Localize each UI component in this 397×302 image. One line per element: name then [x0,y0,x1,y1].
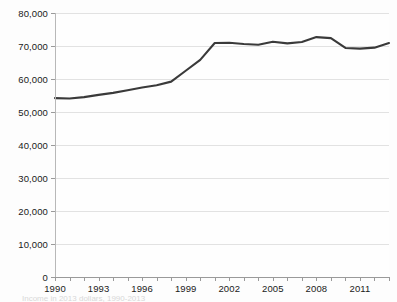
y-axis-tick-label: 60,000 [0,74,48,85]
y-axis-tick-mark [51,145,55,146]
plot-area [55,13,389,277]
x-axis-tick-mark [287,277,288,281]
x-axis-tick-label: 2011 [350,283,371,294]
y-axis-tick-mark [51,46,55,47]
y-axis-tick-label: 40,000 [0,140,48,151]
y-axis-tick-label: 20,000 [0,206,48,217]
x-axis-tick-mark [374,277,375,281]
x-axis-tick-label: 2005 [262,283,284,294]
x-axis-tick-label: 1993 [88,283,110,294]
x-axis-tick-mark [331,277,332,281]
x-axis-tick-mark [70,277,71,281]
y-axis-tick-mark [51,211,55,212]
x-axis-tick-mark [84,277,85,281]
x-axis-tick-mark [316,277,317,281]
y-axis-tick-mark [51,13,55,14]
x-axis-tick-mark [171,277,172,281]
y-axis-tick-label: 0 [0,272,48,283]
y-axis-tick-mark [51,244,55,245]
x-axis-tick-mark [200,277,201,281]
chart-caption: Income in 2013 dollars, 1990-2013 [22,294,392,302]
x-axis-tick-mark [258,277,259,281]
x-axis-tick-mark [113,277,114,281]
x-axis-tick-mark [345,277,346,281]
x-axis-tick-label: 2002 [218,283,240,294]
y-axis-tick-label: 80,000 [0,8,48,19]
y-axis-tick-mark [51,112,55,113]
x-axis-tick-label: 1999 [175,283,197,294]
x-axis-tick-mark [142,277,143,281]
series-line-median-household-income [55,37,389,98]
x-axis-tick-mark [229,277,230,281]
x-axis-tick-mark [157,277,158,281]
x-axis-tick-mark [128,277,129,281]
x-axis-tick-mark [99,277,100,281]
x-axis-tick-mark [186,277,187,281]
y-axis-line [55,13,56,278]
x-axis-line [55,277,389,278]
line-chart: 010,00020,00030,00040,00050,00060,00070,… [0,0,397,302]
x-axis-tick-mark [302,277,303,281]
y-axis-tick-mark [51,178,55,179]
y-axis-tick-label: 70,000 [0,41,48,52]
x-axis-tick-label: 2008 [306,283,328,294]
y-axis-tick-label: 50,000 [0,107,48,118]
y-axis-tick-label: 30,000 [0,173,48,184]
x-axis-tick-mark [389,277,390,281]
x-axis-tick-mark [273,277,274,281]
y-axis-tick-label: 10,000 [0,239,48,250]
x-axis-tick-label: 1990 [44,283,66,294]
x-axis-tick-mark [360,277,361,281]
x-axis-tick-mark [55,277,56,281]
series-line-layer [55,13,389,277]
x-axis-tick-label: 1996 [131,283,153,294]
x-axis-tick-mark [215,277,216,281]
y-axis-tick-mark [51,79,55,80]
x-axis-tick-mark [244,277,245,281]
